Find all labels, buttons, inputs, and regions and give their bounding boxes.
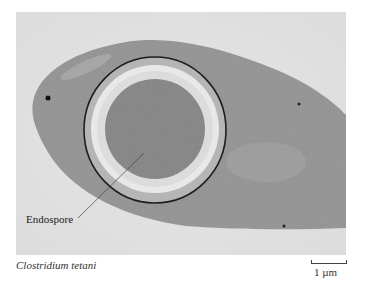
micrograph: Endospore <box>16 12 346 255</box>
granule <box>283 225 286 228</box>
scale-bar <box>311 260 347 264</box>
figure-caption: Clostridium tetani <box>16 259 96 271</box>
granule <box>298 103 301 106</box>
granule <box>46 96 51 101</box>
endospore-core <box>105 79 205 179</box>
scale-bar-label: 1 µm <box>314 266 337 278</box>
cell-light-patch <box>226 142 306 182</box>
endospore-label: Endospore <box>26 213 73 225</box>
